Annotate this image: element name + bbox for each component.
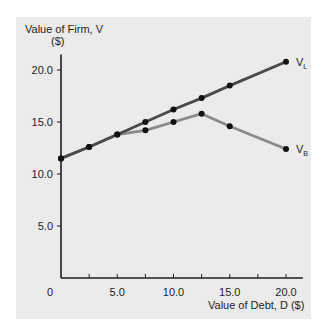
y-axis-label: Value of Firm, V <box>25 23 104 35</box>
y-tick-label: 10.0 <box>32 168 53 180</box>
data-point-marker <box>227 83 233 89</box>
x-tick-label: 20.0 <box>275 286 296 298</box>
series-label-v-l: VL <box>296 56 307 70</box>
data-point-marker <box>199 95 205 101</box>
data-point-marker <box>227 123 233 129</box>
data-point-marker <box>283 146 289 152</box>
origin-label: 0 <box>47 286 53 298</box>
series-label-v-b: VB <box>296 143 308 157</box>
data-point-marker <box>142 119 148 125</box>
data-point-marker <box>114 131 120 137</box>
data-point-marker <box>171 107 177 113</box>
data-point-marker <box>86 144 92 150</box>
y-tick-label: 5.0 <box>38 220 53 232</box>
y-axis-title: Value of Firm, V ($) <box>25 23 104 47</box>
data-point-marker <box>171 119 177 125</box>
y-axis-unit: ($) <box>51 35 64 47</box>
y-tick-label: 20.0 <box>32 64 53 76</box>
x-tick-label: 15.0 <box>219 286 240 298</box>
data-point-marker <box>199 111 205 117</box>
x-axis-label: Value of Debt, D ($) <box>208 299 304 311</box>
tick-labels: 5.010.015.020.05.010.015.020.00 <box>32 64 297 298</box>
data-point-marker <box>283 59 289 65</box>
series-labels: VLVB <box>296 56 308 157</box>
axes <box>57 54 303 278</box>
y-tick-label: 15.0 <box>32 116 53 128</box>
x-tick-label: 10.0 <box>163 286 184 298</box>
data-point-marker <box>58 155 64 161</box>
data-point-marker <box>142 127 148 133</box>
x-tick-label: 5.0 <box>110 286 125 298</box>
line-chart: Value of Firm, V ($) 5.010.015.020.05.01… <box>0 0 328 331</box>
